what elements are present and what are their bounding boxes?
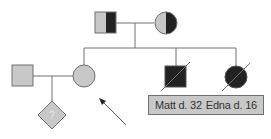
question-mark: ? xyxy=(49,110,55,121)
unborn-diamond-symbol: ? xyxy=(38,101,66,129)
mother-symbol xyxy=(155,12,177,34)
daughter-symbol xyxy=(73,65,95,87)
father-symbol xyxy=(95,12,116,33)
pedigree-chart: ? xyxy=(0,0,271,139)
deceased-labels: Matt d. 32 Edna d. 16 xyxy=(148,95,264,115)
label-matt: Matt d. 32 xyxy=(155,99,202,111)
matt-symbol xyxy=(161,62,190,91)
arrow-icon xyxy=(99,98,126,125)
spouse-symbol xyxy=(12,65,33,86)
edna-symbol xyxy=(222,63,250,91)
label-edna: Edna d. 16 xyxy=(206,99,257,111)
